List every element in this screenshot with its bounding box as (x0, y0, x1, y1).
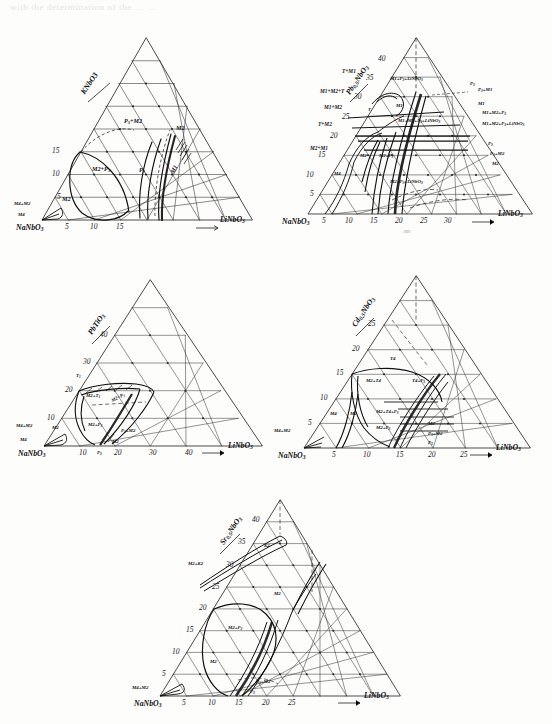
pbtio3-field-p3-axis: P3 (97, 451, 102, 456)
pb05nbo3-bottom-tick-20: 20 (395, 217, 403, 225)
pbtio3-field-p3-m2: P3+M2 (121, 429, 135, 434)
knbo3-left-tick-15: 15 (52, 147, 60, 155)
sr05nbo3-field-m2-low: M2 (210, 660, 217, 665)
pb05nbo3-field-t-m2: T+M2 (318, 122, 332, 127)
scanned-figure-page: with the determination of the … … (0, 0, 552, 724)
pbtio3-right-axis-label: LiNbO3 (228, 442, 253, 451)
sr05nbo3-field-m2-up: M2 (274, 592, 281, 597)
pb05nbo3-left-tick-10: 10 (306, 171, 314, 179)
pb05nbo3-bottom-tick-5: 5 (322, 217, 326, 225)
pb05nbo3-field-m1-mid: M1 (396, 104, 403, 109)
pb05nbo3-bottom-tick-25: 25 (420, 217, 428, 225)
pbtio3-field-m2-low: M2 (112, 440, 119, 445)
pb05nbo3-field-m1-m2-p3-right: M1+M2+P3 (482, 111, 506, 116)
sr05nbo3-field-p3-m2: P3+M2 (256, 680, 270, 685)
pb05nbo3-field-m2: M2 (360, 154, 367, 159)
pbtio3-field-m2-p3: M2+P3 (88, 423, 102, 428)
pb05nbo3-field-m1-m2-t: M1+M2+T (320, 89, 344, 94)
cd05nbo3-left-corner-label: NaNbO3 (278, 452, 306, 461)
sr05nbo3-left-tick-25: 25 (212, 583, 220, 591)
pb05nbo3-left-tick-25: 25 (342, 113, 350, 121)
pb05nbo3-field-m1-right: M1 (478, 102, 485, 107)
knbo3-field-p3-m2: P3+M2 (124, 118, 142, 125)
cd05nbo3-bottom-tick-5: 5 (332, 451, 336, 459)
ternary-diagram-pb05nbo3: Pb0,5NbO3 NaNbO3 LiNbO3 5 10 15 20 25 30… (292, 32, 540, 232)
sr05nbo3-left-tick-15: 15 (186, 626, 194, 634)
pbtio3-bottom-tick-30: 30 (149, 449, 157, 457)
pbtio3-triangle-graphic (22, 262, 270, 462)
knbo3-field-m2-top: M2 (176, 125, 185, 131)
cd05nbo3-field-p3-m2: P3+M2 (428, 432, 442, 437)
knbo3-field-m2-low: M2 (62, 196, 71, 202)
knbo3-triangle-graphic (28, 30, 268, 240)
sr05nbo3-bottom-tick-25: 25 (288, 699, 296, 707)
sr05nbo3-bottom-tick-20: 20 (262, 699, 270, 707)
knbo3-left-tick-10: 10 (52, 170, 60, 178)
pb05nbo3-field-p3-right: P3 (470, 82, 475, 87)
pb05nbo3-field-t: T (368, 108, 371, 113)
pbtio3-left-corner-label: NaNbO3 (18, 450, 46, 459)
knbo3-bottom-tick-15: 15 (116, 223, 124, 231)
knbo3-bottom-tick-10: 10 (90, 223, 98, 231)
cd05nbo3-field-m2-t4: M2+T4 (366, 379, 381, 384)
cd05nbo3-bottom-tick-15: 15 (396, 451, 404, 459)
sr05nbo3-bottom-tick-5: 5 (182, 699, 186, 707)
pb05nbo3-field-p3-m2-right: P3+M2 (490, 152, 504, 157)
sr05nbo3-right-axis-label: LiNbO3 (364, 692, 389, 701)
sr05nbo3-bottom-tick-15: 15 (235, 699, 243, 707)
cd05nbo3-bottom-tick-10: 10 (363, 451, 371, 459)
cd05nbo3-field-m2: M2 (350, 412, 357, 417)
knbo3-field-m2-p3: M2+P3 (92, 166, 110, 173)
sr05nbo3-field-m2-p3: M2+P3 (228, 626, 242, 631)
pb05nbo3-left-tick-15: 15 (318, 151, 326, 159)
cd05nbo3-left-tick-15: 15 (336, 369, 344, 377)
knbo3-field-m4-m2: M4+M2 (14, 202, 30, 207)
cd05nbo3-right-axis-label: LiNbO3 (496, 444, 521, 453)
ternary-diagram-knbo3: KNbO3 NaNbO3 LiNbO3 5 10 15 5 10 15 P3+M… (28, 30, 268, 240)
pb05nbo3-field-m2-m1: M2+M1 (310, 146, 328, 151)
pbtio3-bottom-tick-40: 40 (185, 449, 193, 457)
knbo3-field-m4: M4 (18, 213, 25, 218)
pb05nbo3-left-tick-30: 30 (354, 93, 362, 101)
knbo3-bottom-tick-5: 5 (65, 223, 69, 231)
knbo3-field-p3: P3 (139, 167, 145, 174)
cd05nbo3-field-m2-t4-p3: M2+T4+P3 (376, 410, 399, 415)
pbtio3-left-tick-10: 10 (47, 414, 55, 422)
pbtio3-left-tick-20: 20 (65, 386, 73, 394)
cd05nbo3-triangle-graphic (288, 262, 538, 464)
page-header-faded-text: with the determination of the … … (10, 2, 430, 14)
cd05nbo3-field-m2-right: M2 (428, 422, 435, 427)
pb05nbo3-bottom-tick-10: 10 (345, 217, 353, 225)
cd05nbo3-bottom-tick-20: 20 (428, 451, 436, 459)
sr05nbo3-field-p3: P3 (250, 690, 255, 695)
pb05nbo3-field-p3-right2: P3 (488, 142, 493, 147)
pbtio3-left-tick-30: 30 (83, 358, 91, 366)
sr05nbo3-triangle-graphic (146, 488, 436, 718)
knbo3-right-axis-label: LiNbO3 (220, 216, 245, 225)
sr05nbo3-left-tick-20: 20 (199, 604, 207, 612)
pb05nbo3-left-tick-5: 5 (310, 190, 314, 198)
pbtio3-field-m4: M4 (20, 438, 27, 443)
cd05nbo3-left-tick-10: 10 (320, 394, 328, 402)
pb05nbo3-field-p3-m1-right: P3+M1 (478, 88, 492, 93)
pb05nbo3-left-tick-20: 20 (330, 132, 338, 140)
sr05nbo3-left-tick-35: 35 (238, 538, 246, 546)
cd05nbo3-field-t4: T4 (390, 357, 395, 362)
ternary-diagram-cd05nbo3: Cd0,5NbO3 NaNbO3 LiNbO3 5 10 15 20 25 5 … (288, 262, 538, 464)
cd05nbo3-field-m2-p3: M2+P3 (376, 426, 390, 431)
pbtio3-left-tick-40: 40 (100, 331, 108, 339)
sr05nbo3-left-tick-10: 10 (172, 648, 180, 656)
pb05nbo3-left-tick-40: 40 (378, 55, 386, 63)
sr05nbo3-field-m4-m2: M4+M2 (132, 686, 148, 691)
pb05nbo3-figure-caption: nn (404, 228, 410, 234)
pb05nbo3-field-m2-p3: M2+P3 (379, 154, 393, 159)
pb05nbo3-right-axis-label: LiNbO3 (498, 210, 523, 219)
cd05nbo3-left-tick-20: 20 (352, 345, 360, 353)
sr05nbo3-field-k2: K2 (264, 544, 270, 549)
pb05nbo3-bottom-tick-30: 30 (444, 217, 452, 225)
pb05nbo3-field-m1-m2-p3-linbo3-inner: M1+M2+P3+LiNbO3 (398, 119, 440, 124)
pb05nbo3-field-m1-m2: M1+M2 (324, 105, 342, 110)
pb05nbo3-left-tick-35: 35 (366, 74, 374, 82)
pbtio3-field-m2-t1: M2+T1 (86, 394, 100, 399)
cd05nbo3-field-m4: M4 (330, 412, 337, 417)
